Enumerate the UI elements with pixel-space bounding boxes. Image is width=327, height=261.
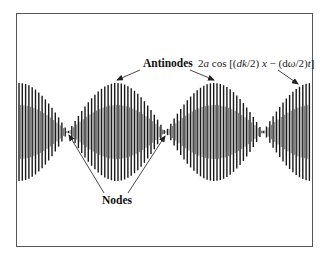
antinode-arrow-left bbox=[117, 70, 140, 80]
envelope-arrow bbox=[278, 70, 298, 84]
node-arrow-right bbox=[128, 136, 165, 193]
nodes-label: Nodes bbox=[102, 194, 133, 206]
envelope-formula: 2a cos [(dk/2) x − (dω/2)t] bbox=[198, 57, 314, 70]
antinodes-label: Antinodes bbox=[143, 57, 193, 69]
beat-wave-diagram: Antinodes 2a cos [(dk/2) x − (dω/2)t] No… bbox=[0, 0, 327, 261]
modulated-wave bbox=[19, 83, 309, 181]
antinode-arrow-middle bbox=[190, 70, 214, 80]
